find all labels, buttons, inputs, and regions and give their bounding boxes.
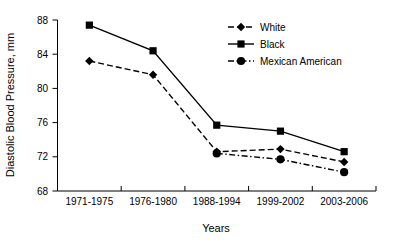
diastolic-blood-pressure-line-chart: 687276808488 1971-19751976-19801988-1994… [0,0,401,241]
y-tick-label: 76 [37,117,49,128]
y-tick-label: 72 [37,151,49,162]
chart-container: 687276808488 1971-19751976-19801988-1994… [0,0,401,241]
x-tick-label: 1999-2002 [257,196,305,207]
x-tick-label: 1971-1975 [65,196,113,207]
circle-marker [340,168,348,176]
y-axis-ticks [53,20,58,191]
y-tick-label: 88 [37,15,49,26]
circle-marker [237,57,245,65]
y-axis-title: Diastolic Blood Pressure, mm [4,33,16,177]
y-tick-label: 80 [37,83,49,94]
diamond-marker [340,158,348,166]
series-line [89,61,344,162]
legend-label-black: Black [260,39,285,50]
x-axis-tick-labels: 1971-19751976-19801988-19941999-20022003… [65,196,368,207]
series-black [86,22,348,156]
y-tick-label: 84 [37,49,49,60]
legend-label-white: White [260,22,286,33]
x-tick-label: 2003-2006 [320,196,368,207]
legend-label-mexican-american: Mexican American [260,56,342,67]
diamond-marker [149,71,157,79]
x-axis-title: Years [202,222,230,234]
square-marker [213,122,220,129]
y-tick-label: 68 [37,186,49,197]
diamond-marker [85,57,93,65]
series-mexican-american [213,149,349,176]
circle-marker [213,149,221,157]
square-marker [277,128,284,135]
x-axis-ticks [58,186,377,191]
square-marker [237,40,244,47]
data-series-layer [85,22,348,177]
series-line [89,25,344,152]
x-tick-label: 1976-1980 [129,196,177,207]
circle-marker [276,155,284,163]
chart-legend: WhiteBlackMexican American [228,22,342,67]
square-marker [149,47,156,54]
x-tick-label: 1988-1994 [193,196,241,207]
diamond-marker [276,145,284,153]
diamond-marker [237,23,245,31]
square-marker [341,148,348,155]
y-axis-tick-labels: 687276808488 [37,15,49,197]
square-marker [86,22,93,29]
